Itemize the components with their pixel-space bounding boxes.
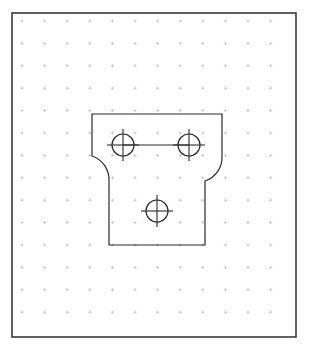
grid-dot — [201, 19, 204, 22]
grid-dot — [43, 154, 46, 157]
grid-dot — [133, 19, 136, 22]
dot-grid — [20, 19, 272, 313]
grid-dot — [43, 109, 46, 112]
grid-dot — [179, 87, 182, 90]
grid-dot — [156, 19, 159, 22]
grid-dot — [20, 42, 23, 45]
grid-dot — [66, 64, 69, 67]
grid-dot — [43, 221, 46, 224]
grid-dot — [246, 221, 249, 224]
grid-dot — [88, 266, 91, 269]
grid-dot — [20, 288, 23, 291]
grid-dot — [224, 42, 227, 45]
grid-dot — [43, 19, 46, 22]
grid-dot — [224, 19, 227, 22]
grid-dot — [88, 109, 91, 112]
grid-dot — [43, 199, 46, 202]
grid-dot — [88, 311, 91, 314]
grid-dot — [43, 243, 46, 246]
grid-dot — [133, 199, 136, 202]
grid-dot — [133, 176, 136, 179]
grid-dot — [111, 288, 114, 291]
grid-dot — [246, 176, 249, 179]
grid-dot — [224, 266, 227, 269]
hole-top-left[interactable] — [107, 129, 139, 161]
grid-dot — [201, 64, 204, 67]
grid-dot — [111, 176, 114, 179]
grid-dot — [246, 154, 249, 157]
grid-dot — [66, 154, 69, 157]
grid-dot — [20, 154, 23, 157]
cad-canvas-root: Orthographic Sketch View Front View mm — [0, 0, 309, 349]
hole-bottom-center[interactable] — [141, 195, 173, 227]
grid-dot — [133, 154, 136, 157]
grid-dot — [111, 199, 114, 202]
grid-dot — [179, 19, 182, 22]
grid-dot — [43, 87, 46, 90]
grid-dot — [111, 87, 114, 90]
grid-dot — [179, 64, 182, 67]
grid-dot — [156, 154, 159, 157]
grid-dot — [269, 19, 272, 22]
grid-dot — [224, 243, 227, 246]
grid-dot — [156, 87, 159, 90]
grid-dot — [179, 288, 182, 291]
grid-dot — [156, 176, 159, 179]
grid-dot — [88, 87, 91, 90]
grid-dot — [133, 311, 136, 314]
grid-dot — [133, 221, 136, 224]
grid-dot — [201, 176, 204, 179]
grid-dot — [246, 243, 249, 246]
grid-dot — [156, 42, 159, 45]
grid-dot — [269, 176, 272, 179]
drawing-surface[interactable] — [0, 0, 309, 349]
grid-dot — [66, 266, 69, 269]
grid-dot — [224, 109, 227, 112]
grid-dot — [156, 131, 159, 134]
grid-dot — [133, 131, 136, 134]
grid-dot — [133, 87, 136, 90]
grid-dot — [20, 19, 23, 22]
grid-dot — [224, 221, 227, 224]
grid-dot — [269, 311, 272, 314]
grid-dot — [20, 87, 23, 90]
grid-dot — [179, 154, 182, 157]
grid-dot — [133, 109, 136, 112]
grid-dot — [156, 109, 159, 112]
grid-dot — [111, 19, 114, 22]
grid-dot — [66, 243, 69, 246]
grid-dot — [246, 199, 249, 202]
grid-dot — [246, 131, 249, 134]
grid-dot — [66, 42, 69, 45]
grid-dot — [133, 266, 136, 269]
grid-dot — [88, 243, 91, 246]
grid-dot — [66, 131, 69, 134]
grid-dot — [43, 266, 46, 269]
grid-dot — [20, 109, 23, 112]
grid-dot — [20, 243, 23, 246]
grid-dot — [224, 131, 227, 134]
grid-dot — [88, 199, 91, 202]
grid-dot — [88, 221, 91, 224]
grid-dot — [133, 288, 136, 291]
grid-dot — [88, 131, 91, 134]
grid-dot — [20, 266, 23, 269]
grid-dot — [66, 311, 69, 314]
grid-dot — [201, 311, 204, 314]
hole-top-right[interactable] — [173, 129, 205, 161]
grid-dot — [66, 19, 69, 22]
grid-dot — [201, 131, 204, 134]
grid-dot — [201, 266, 204, 269]
grid-dot — [269, 199, 272, 202]
grid-dot — [224, 87, 227, 90]
grid-dot — [66, 199, 69, 202]
grid-dot — [269, 154, 272, 157]
grid-dot — [20, 64, 23, 67]
grid-dot — [111, 221, 114, 224]
grid-dot — [224, 311, 227, 314]
grid-dot — [269, 266, 272, 269]
grid-dot — [246, 311, 249, 314]
grid-dot — [20, 199, 23, 202]
grid-dot — [201, 87, 204, 90]
grid-dot — [224, 288, 227, 291]
